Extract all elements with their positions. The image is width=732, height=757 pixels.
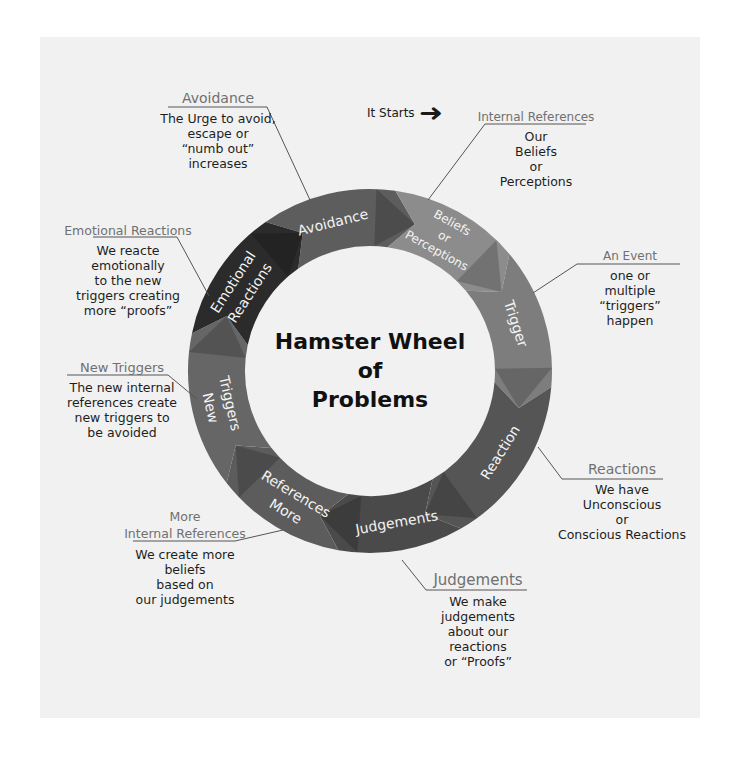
title-line-3: Problems <box>260 385 480 414</box>
callout-line: We reacte <box>58 243 198 258</box>
callout-judgements: Judgements We make judgements about our … <box>413 570 543 669</box>
callout-line: judgements <box>413 609 543 624</box>
callout-line: “numb out” <box>148 141 288 156</box>
callout-line: more “proofs” <box>58 303 198 318</box>
callout-title: Emotional Reactions <box>60 223 196 240</box>
callout-line: escape or <box>148 126 288 141</box>
callout-line: one or <box>580 268 680 283</box>
callout-line: We create more <box>110 547 260 562</box>
callout-line: to the new <box>58 273 198 288</box>
start-label: It Starts <box>367 106 415 120</box>
callout-line: about our <box>413 624 543 639</box>
callout-title: An Event <box>599 249 661 265</box>
callout-line: The Urge to avoid, <box>148 111 288 126</box>
callout-line: We have <box>552 482 692 497</box>
callout-line: Beliefs <box>466 144 606 159</box>
callout-line: happen <box>580 313 680 328</box>
callout-title: Judgements <box>429 571 526 591</box>
right-arrow-icon: ➜ <box>419 107 443 119</box>
callout-title: New Triggers <box>76 360 168 377</box>
callout-line: We make <box>413 594 543 609</box>
callout-line: be avoided <box>52 425 192 440</box>
callout-body: We have Unconscious or Conscious Reactio… <box>552 482 692 542</box>
callout-title: Internal References <box>474 110 599 126</box>
title-line-1: Hamster Wheel <box>260 327 480 356</box>
callout-title-line: More <box>124 508 246 525</box>
callout-body: The Urge to avoid, escape or “numb out” … <box>148 111 288 171</box>
start-marker: It Starts ➜ <box>367 106 441 120</box>
callout-line: references create <box>52 395 192 410</box>
callout-line: or <box>552 512 692 527</box>
callout-line: increases <box>148 156 288 171</box>
callout-body: Our Beliefs or Perceptions <box>466 129 606 189</box>
callout-line: reactions <box>413 639 543 654</box>
callout-line: or <box>466 159 606 174</box>
callout-title: Reactions <box>584 461 660 479</box>
callout-line: or “Proofs” <box>413 654 543 669</box>
callout-line: triggers creating <box>58 288 198 303</box>
callout-body: The new internal references create new t… <box>52 380 192 440</box>
callout-body: We make judgements about our reactions o… <box>413 594 543 669</box>
callout-line: our judgements <box>110 592 260 607</box>
callout-body: one or multiple “triggers” happen <box>580 268 680 328</box>
callout-title-line: Internal References <box>124 525 246 542</box>
callout-new-triggers: New Triggers The new internal references… <box>52 357 192 440</box>
callout-body: We reacte emotionally to the new trigger… <box>58 243 198 318</box>
wheel-title: Hamster Wheel of Problems <box>260 327 480 414</box>
callout-internal-references: Internal References Our Beliefs or Perce… <box>466 106 606 189</box>
callout-line: The new internal <box>52 380 192 395</box>
callout-an-event: An Event one or multiple “triggers” happ… <box>580 245 680 328</box>
callout-line: new triggers to <box>52 410 192 425</box>
callout-line: multiple <box>580 283 680 298</box>
callout-line: based on <box>110 577 260 592</box>
callout-title: More Internal References <box>120 508 250 544</box>
callout-line: emotionally <box>58 258 198 273</box>
callout-more-internal-references: More Internal References We create more … <box>110 508 260 607</box>
callout-line: “triggers” <box>580 298 680 313</box>
callout-line: beliefs <box>110 562 260 577</box>
callout-line: Unconscious <box>552 497 692 512</box>
callout-line: Perceptions <box>466 174 606 189</box>
callout-emotional-reactions: Emotional Reactions We reacte emotionall… <box>58 220 198 318</box>
title-line-2: of <box>260 356 480 385</box>
callout-line: Conscious Reactions <box>552 527 692 542</box>
callout-avoidance: Avoidance The Urge to avoid, escape or “… <box>148 88 288 171</box>
callout-title: Avoidance <box>178 90 258 108</box>
callout-body: We create more beliefs based on our judg… <box>110 547 260 607</box>
callout-reactions: Reactions We have Unconscious or Conscio… <box>552 459 692 542</box>
callout-line: Our <box>466 129 606 144</box>
